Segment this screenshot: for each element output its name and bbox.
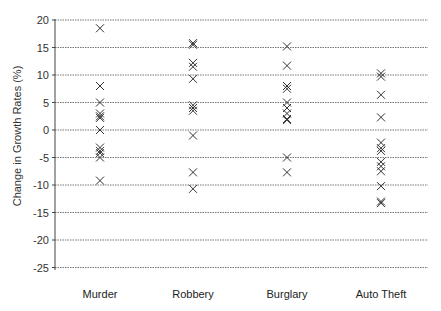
y-tick-label: -15: [33, 207, 49, 219]
series-auto-theft: [377, 69, 385, 207]
y-tick-label: -5: [39, 152, 49, 164]
category-label: Murder: [83, 288, 118, 300]
x-marker-icon: [377, 113, 385, 121]
x-marker-icon: [96, 82, 104, 90]
x-marker-icon: [189, 59, 197, 67]
x-marker-icon: [377, 158, 385, 166]
x-marker-icon: [189, 75, 197, 83]
x-marker-icon: [189, 132, 197, 140]
x-marker-icon: [283, 168, 291, 176]
scatter-chart: 20151050-5-10-15-20-25 MurderRobberyBurg…: [0, 0, 441, 311]
category-label: Robbery: [172, 288, 214, 300]
gridlines: [55, 20, 428, 268]
data-points: [96, 24, 385, 207]
x-marker-icon: [377, 199, 385, 207]
y-tick-label: 5: [43, 97, 49, 109]
y-axis-ticks: 20151050-5-10-15-20-25: [33, 14, 55, 274]
y-tick-label: 15: [37, 42, 49, 54]
x-marker-icon: [377, 167, 385, 175]
x-marker-icon: [377, 198, 385, 206]
x-marker-icon: [189, 39, 197, 47]
y-axis-label: Change in Growth Rates (%): [11, 66, 23, 207]
category-label: Auto Theft: [356, 288, 407, 300]
category-label: Burglary: [267, 288, 308, 300]
series-robbery: [189, 39, 197, 193]
x-marker-icon: [283, 154, 291, 162]
x-marker-icon: [283, 116, 291, 124]
series-burglary: [283, 42, 291, 176]
x-marker-icon: [189, 168, 197, 176]
y-tick-label: -25: [33, 262, 49, 274]
x-marker-icon: [283, 115, 291, 123]
x-marker-icon: [377, 91, 385, 99]
x-marker-icon: [189, 185, 197, 193]
x-marker-icon: [377, 182, 385, 190]
x-marker-icon: [96, 177, 104, 185]
y-tick-label: 0: [43, 124, 49, 136]
y-tick-label: -10: [33, 179, 49, 191]
y-tick-label: -20: [33, 234, 49, 246]
x-marker-icon: [283, 62, 291, 70]
x-axis-categories: MurderRobberyBurglaryAuto Theft: [83, 288, 407, 300]
x-marker-icon: [189, 63, 197, 71]
x-marker-icon: [283, 42, 291, 50]
y-tick-label: 20: [37, 14, 49, 26]
series-murder: [96, 24, 104, 184]
y-tick-label: 10: [37, 69, 49, 81]
x-marker-icon: [96, 114, 104, 122]
x-marker-icon: [96, 24, 104, 32]
